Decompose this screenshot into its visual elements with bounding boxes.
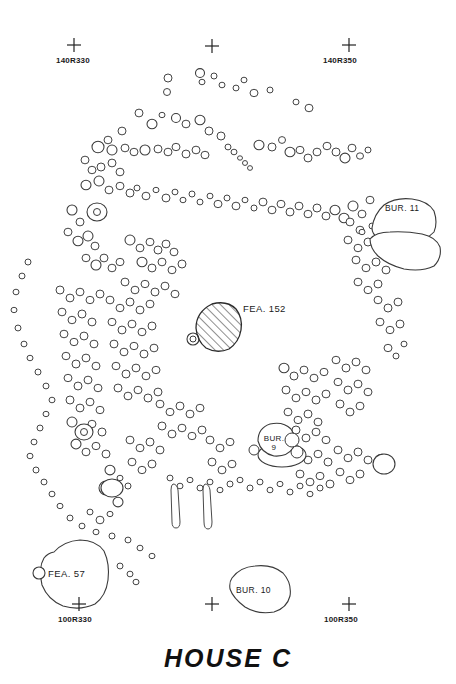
postmold <box>68 316 76 324</box>
postmold <box>162 240 170 248</box>
postmold <box>189 191 195 197</box>
postmold <box>156 400 164 408</box>
postmold <box>294 416 302 423</box>
postmold <box>366 196 374 204</box>
postmold <box>130 342 138 349</box>
postmold <box>228 460 236 468</box>
postmold <box>323 142 331 150</box>
postmold <box>364 388 372 396</box>
feature-label-bur-9-line2: 9 <box>272 443 277 452</box>
postmold <box>113 497 123 507</box>
postmold <box>306 478 314 486</box>
grid-marker-gm-100r340 <box>205 597 219 611</box>
postmold <box>346 408 354 416</box>
entrance-trench-right[interactable] <box>203 484 212 529</box>
postmold <box>57 503 63 508</box>
postmold <box>251 205 257 211</box>
entrance-trench-left[interactable] <box>171 484 180 528</box>
pit-left-lower[interactable] <box>101 479 123 497</box>
postmold <box>76 218 84 226</box>
postmold <box>81 180 91 189</box>
postmold <box>354 278 362 286</box>
page-title: HOUSE C <box>0 644 456 673</box>
postmold <box>19 273 25 279</box>
postmold <box>98 428 106 436</box>
postmold <box>132 364 140 372</box>
postmold <box>146 438 154 446</box>
postmold <box>81 156 89 164</box>
postmold <box>56 286 64 294</box>
postmold <box>93 529 99 535</box>
postmold <box>88 318 96 326</box>
postmold <box>352 358 360 366</box>
postmold <box>259 198 267 206</box>
postmold <box>224 195 230 201</box>
postmold <box>196 69 205 78</box>
postmold <box>25 259 31 265</box>
postmold <box>374 280 382 288</box>
postmold <box>130 148 138 156</box>
postmold <box>384 304 392 312</box>
postmold <box>242 197 248 203</box>
postmold <box>324 458 332 466</box>
postmold <box>344 236 352 244</box>
postmold <box>171 290 179 298</box>
feature-fea-152[interactable] <box>187 303 241 352</box>
postmold <box>134 185 140 191</box>
postmold <box>118 326 126 334</box>
postmold <box>164 89 171 96</box>
postmold <box>293 99 299 105</box>
postmold <box>92 442 100 449</box>
postmold <box>257 479 263 485</box>
postmold <box>116 182 124 190</box>
postmold <box>167 475 173 481</box>
postmold <box>304 410 312 418</box>
postmold <box>116 304 124 312</box>
postmold <box>125 537 131 543</box>
grid-label-100r350: 100R350 <box>324 615 358 624</box>
pit-right-lower[interactable] <box>373 454 395 474</box>
postmold <box>108 264 116 272</box>
postmold <box>86 398 94 406</box>
postmold <box>116 168 124 176</box>
postmold <box>133 579 139 585</box>
postmold <box>27 453 33 459</box>
postmold <box>158 422 166 430</box>
postmold <box>300 366 308 374</box>
postmold <box>126 436 134 444</box>
postmold <box>79 523 85 529</box>
feature-label-bur-9-line1: BUR. <box>264 434 285 443</box>
postmold <box>330 205 340 215</box>
pit-left-upper[interactable] <box>87 203 107 221</box>
postmold <box>154 246 162 254</box>
postmold <box>362 264 370 272</box>
feature-label-bur-9: BUR. 9 <box>261 434 287 452</box>
postmold <box>354 448 362 456</box>
postmold <box>114 384 122 392</box>
postmold <box>316 472 324 479</box>
postmold <box>121 278 129 286</box>
postmold <box>66 294 74 302</box>
postmold <box>356 402 364 410</box>
postmold <box>332 356 340 364</box>
postmold <box>92 141 104 152</box>
postmold <box>188 432 196 439</box>
postmold <box>182 120 190 128</box>
postmold <box>128 320 136 328</box>
postmold <box>58 308 66 316</box>
postmold <box>96 516 104 524</box>
postmold <box>73 236 83 245</box>
postmold <box>214 200 222 207</box>
postmold <box>358 210 366 218</box>
postmold <box>11 307 17 312</box>
postmold <box>72 360 80 368</box>
postmold <box>156 446 164 454</box>
postmold <box>320 368 328 375</box>
postmold <box>64 374 72 381</box>
postmold <box>284 408 292 416</box>
postmold <box>365 147 371 153</box>
pit-left-mid[interactable] <box>75 424 93 440</box>
postmold <box>238 156 243 160</box>
postmold <box>217 132 225 140</box>
postmold <box>142 192 150 200</box>
